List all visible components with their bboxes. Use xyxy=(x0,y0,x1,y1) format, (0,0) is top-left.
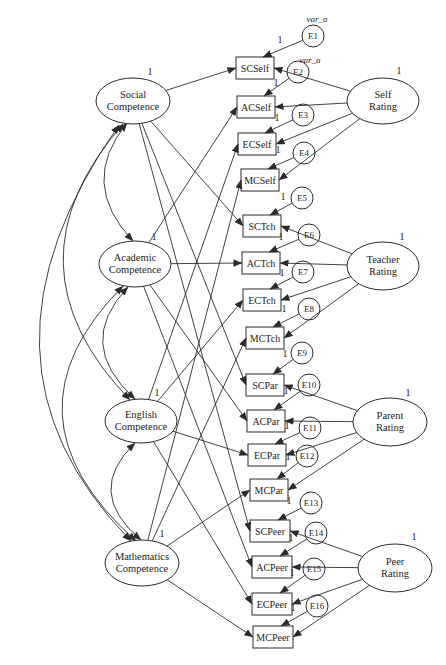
trait-loading-path-social-to-SCSelf xyxy=(166,68,236,90)
sem-diagram-page: SocialCompetence1AcademicCompetence1Engl… xyxy=(0,0,446,665)
indicator-label-ACTch: ACTch xyxy=(247,258,276,269)
method-factor-label-line2-self: Rating xyxy=(369,101,398,112)
method-loading-path-self-to-ECSelf xyxy=(276,113,353,144)
error-label-E9: E9 xyxy=(297,348,307,358)
error-path-E8-to-MCTch xyxy=(273,314,299,327)
error-loading-label-E16: 1 xyxy=(291,602,296,613)
error-loading-label-E7: 1 xyxy=(280,267,285,278)
method-factor-label-line1-parent: Parent xyxy=(377,410,404,421)
error-loading-label-E3: 1 xyxy=(275,112,280,123)
indicator-label-ECPar: ECPar xyxy=(254,450,281,461)
method-loading-path-peer-to-ACPeer xyxy=(292,567,358,568)
error-label-E14: E14 xyxy=(309,528,324,538)
indicator-label-ACPeer: ACPeer xyxy=(256,562,288,573)
trait-factor-label-line2-mathematics: Competence xyxy=(116,563,169,574)
method-factor-label-line1-peer: Peer xyxy=(386,556,405,567)
error-variance-label-E1: var_a xyxy=(307,14,328,24)
trait-factor-label-line1-academic: Academic xyxy=(114,252,157,263)
error-loading-label-E2: 1 xyxy=(274,77,279,88)
trait-loading-path-academic-to-ACTch xyxy=(171,263,242,264)
method-loading-path-self-to-ACSelf xyxy=(275,103,347,107)
error-loading-label-E1: 1 xyxy=(278,34,283,45)
error-label-E5: E5 xyxy=(297,193,307,203)
error-label-E2: E2 xyxy=(293,67,303,77)
trait-covariance-curve-academic-english xyxy=(103,287,135,399)
method-factor-label-line2-parent: Rating xyxy=(376,422,405,433)
error-label-E12: E12 xyxy=(300,451,315,461)
trait-covariance-curve-english-mathematics xyxy=(111,443,141,540)
method-factor-label-line2-teacher: Rating xyxy=(369,266,398,277)
trait-factor-variance-label-mathematics: 1 xyxy=(160,528,165,539)
indicator-label-ACSelf: ACSelf xyxy=(241,102,272,113)
error-label-E13: E13 xyxy=(304,498,319,508)
method-loading-path-teacher-to-MCTch xyxy=(284,284,359,338)
sem-path-diagram: SocialCompetence1AcademicCompetence1Engl… xyxy=(0,0,446,665)
error-loading-label-E15: 1 xyxy=(290,567,295,578)
error-loading-label-E12: 1 xyxy=(286,451,291,462)
indicator-label-SCPeer: SCPeer xyxy=(255,526,286,537)
method-loading-path-peer-to-ECPeer xyxy=(292,579,362,604)
method-loading-path-teacher-to-ACTch xyxy=(280,263,347,265)
trait-factor-variance-label-academic: 1 xyxy=(152,231,157,242)
indicator-label-SCPar: SCPar xyxy=(252,380,278,391)
error-path-E5-to-SCTch xyxy=(270,203,292,215)
error-label-E1: E1 xyxy=(308,31,318,41)
trait-loading-path-english-to-ECPar xyxy=(173,431,248,455)
trait-factor-label-line2-academic: Competence xyxy=(109,264,162,275)
trait-loading-path-social-to-SCTch xyxy=(151,121,243,226)
error-loading-label-E10: 1 xyxy=(284,385,289,396)
trait-factor-label-line2-social: Competence xyxy=(107,101,160,112)
indicator-label-ECSelf: ECSelf xyxy=(243,139,273,150)
error-loading-label-E5: 1 xyxy=(281,191,286,202)
indicator-label-MCPeer: MCPeer xyxy=(256,632,290,643)
error-loading-label-E11: 1 xyxy=(285,420,290,431)
trait-factor-label-line1-mathematics: Mathematics xyxy=(115,551,169,562)
trait-factor-label-line1-english: English xyxy=(125,409,158,420)
trait-loading-path-english-to-ECTch xyxy=(157,300,243,401)
error-loading-label-E9: 1 xyxy=(283,348,288,359)
method-loading-path-parent-to-SCPar xyxy=(284,385,357,411)
error-label-E16: E16 xyxy=(310,601,325,611)
method-loading-path-peer-to-MCPeer xyxy=(293,585,369,637)
trait-factor-label-line2-english: Competence xyxy=(115,421,168,432)
method-factor-variance-label-parent: 1 xyxy=(406,387,411,398)
method-loading-path-self-to-MCSelf xyxy=(279,119,360,180)
indicator-label-MCPar: MCPar xyxy=(255,485,285,496)
method-factor-label-line2-peer: Rating xyxy=(381,568,410,579)
error-path-E1-to-SCSelf xyxy=(263,40,303,57)
error-label-E7: E7 xyxy=(298,267,308,277)
error-loading-label-E4: 1 xyxy=(276,144,281,155)
method-factor-variance-label-self: 1 xyxy=(397,65,402,76)
error-variance-label-E2: var_a xyxy=(300,55,321,65)
trait-loading-path-social-to-SCPeer xyxy=(139,124,250,531)
error-loading-label-E8: 1 xyxy=(282,303,287,314)
trait-factor-label-line1-social: Social xyxy=(120,89,146,100)
trait-loading-path-mathematics-to-MCPar xyxy=(167,490,250,546)
trait-factor-variance-label-social: 1 xyxy=(148,66,153,77)
error-label-E3: E3 xyxy=(298,110,308,120)
method-loading-path-self-to-SCSelf xyxy=(274,68,350,91)
error-path-E7-to-ECTch xyxy=(270,277,293,289)
trait-loading-path-mathematics-to-MCPeer xyxy=(167,580,253,637)
indicator-label-MCTch: MCTch xyxy=(250,333,280,344)
indicator-label-SCSelf: SCSelf xyxy=(241,63,270,74)
error-loading-label-E6: 1 xyxy=(279,231,284,242)
indicator-label-ECPeer: ECPeer xyxy=(257,599,288,610)
method-factor-label-line1-self: Self xyxy=(375,89,392,100)
trait-factor-variance-label-english: 1 xyxy=(155,387,160,398)
method-factor-label-line1-teacher: Teacher xyxy=(366,254,400,265)
error-label-E8: E8 xyxy=(304,304,314,314)
indicator-label-MCSelf: MCSelf xyxy=(244,175,276,186)
error-label-E10: E10 xyxy=(302,380,317,390)
method-factor-variance-label-peer: 1 xyxy=(412,531,417,542)
error-path-E6-to-ACTch xyxy=(269,239,299,252)
error-path-E11-to-ECPar xyxy=(275,433,300,444)
error-loading-label-E14: 1 xyxy=(289,532,294,543)
error-label-E4: E4 xyxy=(299,148,309,158)
error-label-E15: E15 xyxy=(307,564,322,574)
error-path-E9-to-SCPar xyxy=(273,359,293,374)
error-label-E11: E11 xyxy=(303,423,317,433)
method-factor-variance-label-teacher: 1 xyxy=(400,231,405,242)
indicator-label-SCTch: SCTch xyxy=(248,221,275,232)
error-path-E13-to-SCPeer xyxy=(278,508,301,520)
